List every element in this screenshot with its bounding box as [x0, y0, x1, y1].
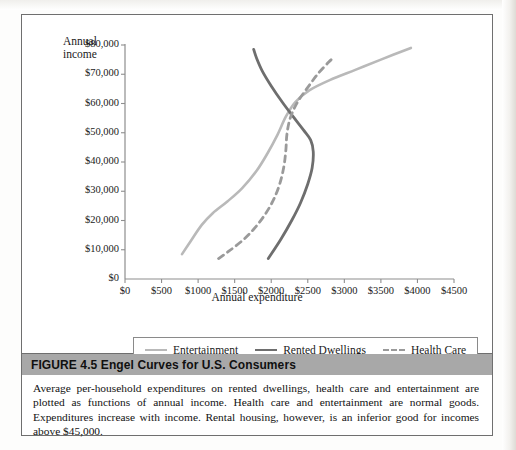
y-tick-label: $70,000 — [61, 67, 119, 78]
figure-caption-bar: FIGURE 4.5 Engel Curves for U.S. Consume… — [21, 354, 493, 375]
figure-caption-body: Average per-household expenditures on re… — [21, 375, 493, 436]
y-tick-label: $10,000 — [61, 243, 119, 254]
y-tick-label: $50,000 — [61, 126, 119, 137]
y-axis-title-line2: income — [63, 48, 97, 60]
figure-box: Annual income Annual expenditure $0$10,0… — [21, 14, 493, 354]
axes — [121, 44, 454, 283]
figure-caption-title: FIGURE 4.5 Engel Curves for U.S. Consume… — [31, 358, 296, 372]
y-tick-label: $60,000 — [61, 97, 119, 108]
y-tick-label: $20,000 — [61, 214, 119, 225]
series-line-entertainment — [182, 48, 411, 254]
x-tick-label: $4500 — [424, 285, 484, 296]
plot-area: Annual income Annual expenditure $0$10,0… — [22, 15, 492, 315]
data-series — [182, 48, 411, 259]
page-edge-right — [502, 0, 516, 450]
page-edge-top — [0, 0, 516, 10]
y-tick-label: $30,000 — [61, 184, 119, 195]
y-tick-label: $0 — [61, 272, 119, 283]
legend-swatch — [145, 349, 167, 351]
y-tick-label: $80,000 — [61, 38, 119, 49]
figure-caption-text: Average per-household expenditures on re… — [33, 381, 479, 439]
legend-swatch — [255, 349, 277, 351]
legend-swatch — [383, 349, 405, 351]
book-page: Annual income Annual expenditure $0$10,0… — [0, 0, 516, 450]
y-tick-label: $40,000 — [61, 155, 119, 166]
series-line-rented-dwellings — [254, 49, 314, 258]
